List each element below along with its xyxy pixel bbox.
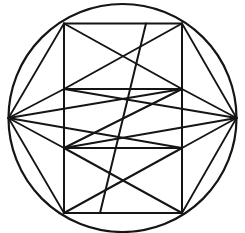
geometric-figure (0, 0, 245, 233)
